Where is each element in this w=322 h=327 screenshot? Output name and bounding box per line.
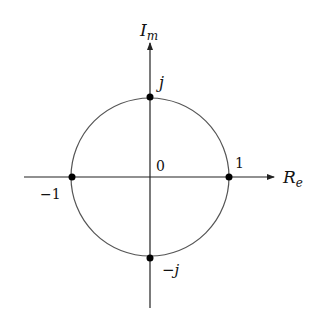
label-minus-one: −1 [40,186,61,202]
point-minus-one [69,174,76,181]
unit-circle-diagram: Im Re 0 1 −1 j −j [0,0,322,327]
origin-label: 0 [156,158,165,174]
point-minus-j [147,255,154,262]
point-j [147,94,154,101]
label-minus-j: −j [162,261,180,279]
x-axis-label: Re [282,167,303,190]
point-one [226,174,233,181]
y-axis-label: Im [139,20,158,43]
label-one: 1 [235,155,244,171]
label-j: j [156,73,164,92]
